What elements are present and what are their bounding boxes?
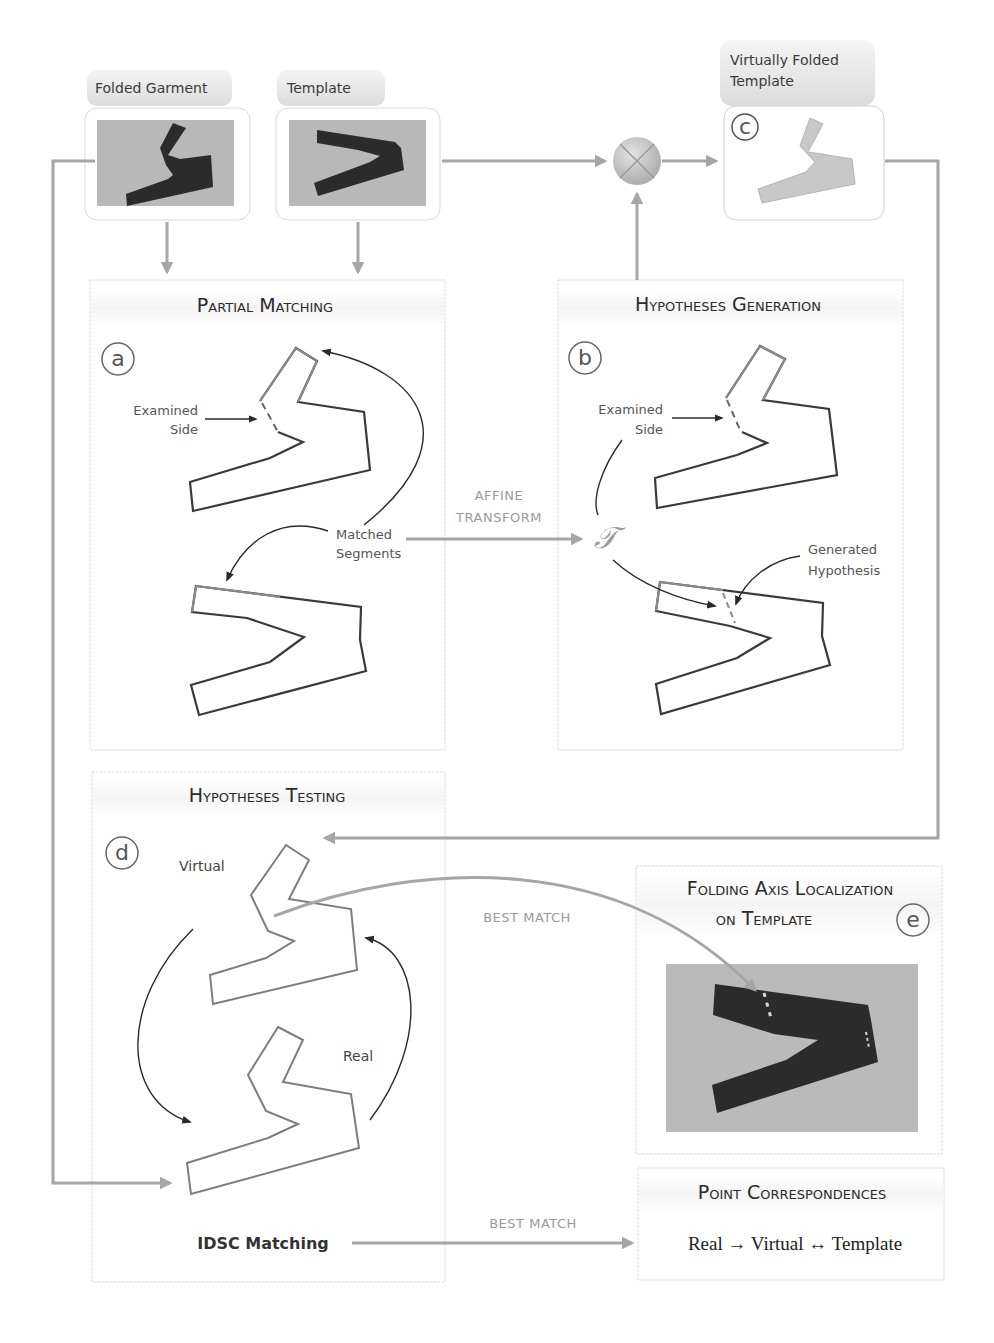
matched-segments-label-2: Segments xyxy=(336,546,402,561)
examined-side-label-b-2: Side xyxy=(635,422,663,437)
template-label: Template xyxy=(286,80,351,96)
panel-folding-axis-localization: Folding Axis Localization on Template e xyxy=(636,866,942,1154)
folding-axis-title-2: on Template xyxy=(716,907,812,929)
hypotheses-generation-title: Hypotheses Generation xyxy=(635,293,821,315)
best-match-label-lower: BEST MATCH xyxy=(489,1216,577,1231)
folded-garment-card: Folded Garment xyxy=(85,70,250,220)
marker-e: e xyxy=(906,907,920,932)
examined-side-label-a-2: Side xyxy=(170,422,198,437)
point-correspondences-formula: Real → Virtual ↔ Template xyxy=(688,1233,902,1254)
template-card: Template xyxy=(276,70,440,220)
template-axis-photo xyxy=(666,964,918,1132)
examined-side-label-b-1: Examined xyxy=(598,402,663,417)
combine-junction xyxy=(613,137,661,185)
virtually-folded-template-card: Virtually Folded Template c xyxy=(720,40,884,220)
panel-partial-matching: Partial Matching a Examined Side Matched… xyxy=(90,280,445,750)
panel-hypotheses-generation: Hypotheses Generation b Examined Side 𝒯 … xyxy=(558,280,903,750)
real-label: Real xyxy=(343,1048,373,1064)
virtual-label: Virtual xyxy=(179,858,225,874)
folding-axis-title-1: Folding Axis Localization xyxy=(687,877,894,899)
generated-hypothesis-label-2: Hypothesis xyxy=(808,563,880,578)
marker-c: c xyxy=(739,114,751,139)
idsc-matching-label: IDSC Matching xyxy=(197,1234,329,1253)
panel-point-correspondences: Point Correspondences Real → Virtual ↔ T… xyxy=(638,1168,944,1280)
affine-label-1: AFFINE xyxy=(475,488,524,503)
virtually-folded-label-1: Virtually Folded xyxy=(730,52,839,68)
template-photo xyxy=(289,120,426,206)
best-match-label-upper: BEST MATCH xyxy=(483,910,571,925)
partial-matching-title: Partial Matching xyxy=(197,294,333,316)
virtually-folded-label-2: Template xyxy=(729,73,794,89)
matched-segments-label-1: Matched xyxy=(336,527,392,542)
marker-a: a xyxy=(111,346,124,371)
examined-side-label-a-1: Examined xyxy=(133,403,198,418)
folded-garment-label: Folded Garment xyxy=(95,80,208,96)
panel-hypotheses-testing: Hypotheses Testing d Virtual Real IDSC M… xyxy=(92,772,445,1282)
marker-b: b xyxy=(578,345,592,370)
marker-d: d xyxy=(115,840,129,865)
point-correspondences-title: Point Correspondences xyxy=(698,1181,887,1203)
pipeline-diagram: Folded Garment Template Virtually Folded… xyxy=(0,0,994,1343)
hypotheses-testing-title: Hypotheses Testing xyxy=(189,784,346,806)
affine-label-2: TRANSFORM xyxy=(455,510,542,525)
generated-hypothesis-label-1: Generated xyxy=(808,542,877,557)
